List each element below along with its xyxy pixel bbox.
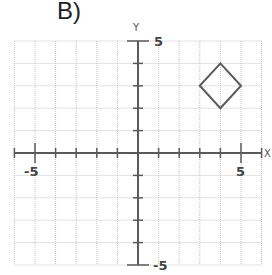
x-axis-label: X <box>264 148 271 159</box>
y-min-label: -5 <box>153 258 167 273</box>
y-axis-label: Y <box>132 22 140 33</box>
y-max-label: 5 <box>154 34 163 49</box>
x-max-label: 5 <box>236 164 245 179</box>
coordinate-plane: -5 5 5 -5 X Y <box>0 0 272 275</box>
x-min-label: -5 <box>24 164 38 179</box>
